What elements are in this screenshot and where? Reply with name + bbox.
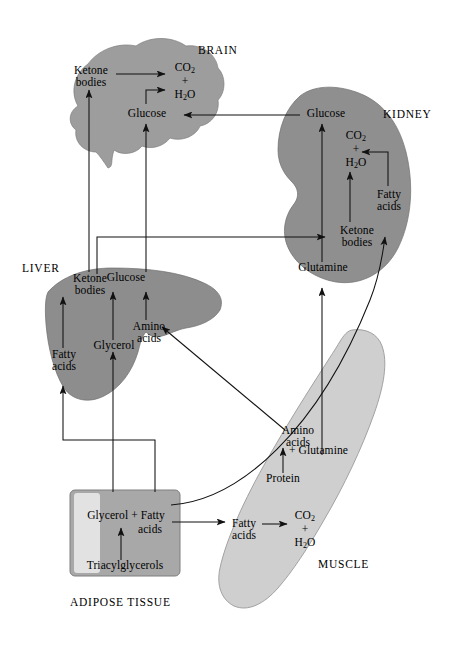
muscle-fatty-acids: Fatty acids [224,517,264,541]
muscle-protein: Protein [258,473,308,485]
co2-subscript: 2 [191,66,195,75]
liver-glucose: Glucose [96,272,156,284]
adipose-acids: acids [128,524,172,536]
adipose-triacylglycerols: Triacylglycerols [73,560,177,572]
muscle-plus: + [288,524,322,536]
organ-label-adipose: ADIPOSE TISSUE [70,596,171,608]
kidney-glucose: Glucose [296,108,356,120]
organ-label-liver: LIVER [22,262,60,274]
kidney-fatty-acids: Fatty acids [369,188,409,212]
kidney-glutamine: Glutamine [288,262,358,274]
muscle-h2o: H2O [288,537,322,551]
brain-ketone-bodies: Ketone bodies [62,64,120,88]
arrow-muscle-amino-to-liver-amino [162,327,285,430]
brain-glucose: Glucose [117,108,177,120]
organ-label-kidney: KIDNEY [383,108,432,120]
arrow-adipose-fatty-to-liver-fatty [63,386,155,492]
organ-label-brain: BRAIN [198,44,238,56]
liver-fatty-acids: Fatty acids [44,348,84,372]
brain-h2o: H2O [168,89,202,103]
adipose-glycerol-fatty: Glycerol + Fatty [76,510,176,522]
liver-glycerol: Glycerol [87,340,141,352]
brain-plus: + [168,76,202,88]
organ-label-muscle: MUSCLE [318,558,369,570]
kidney-ketone-bodies: Ketone bodies [329,224,385,248]
kidney-plus: + [339,144,373,156]
diagram-canvas [0,0,449,656]
kidney-h2o: H2O [339,157,373,171]
muscle-plus-glutamine: + Glutamine [289,445,369,457]
metabolic-pathway-diagram: BRAIN Ketone bodies CO2 + H2O Glucose KI… [0,0,449,656]
